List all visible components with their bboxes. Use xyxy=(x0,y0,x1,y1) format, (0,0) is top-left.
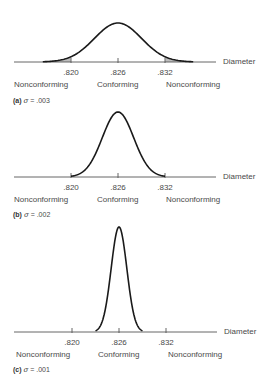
region-nonconforming-left: Nonconforming xyxy=(16,351,70,359)
panel-letter: (b) xyxy=(13,211,22,218)
panel-letter: (a) xyxy=(13,97,22,104)
tick-label-820: .820 xyxy=(64,339,80,347)
panel-c-plot xyxy=(14,227,217,333)
sigma-value: .003 xyxy=(36,97,50,104)
region-nonconforming-right: Nonconforming xyxy=(168,351,222,359)
panel-caption-a: (a) σ = .003 xyxy=(13,97,50,105)
tick-label-832: .832 xyxy=(157,69,173,77)
panel-b-plot xyxy=(14,112,216,178)
axis-label-diameter: Diameter xyxy=(223,173,255,181)
panel-a-plot xyxy=(14,23,216,63)
sigma-value: .002 xyxy=(37,211,51,218)
region-nonconforming-right: Nonconforming xyxy=(166,81,220,89)
region-nonconforming-right: Nonconforming xyxy=(166,196,220,204)
panel-letter: (c) xyxy=(13,366,22,373)
sigma-value: .001 xyxy=(36,366,50,373)
tick-label-820: .820 xyxy=(63,184,79,192)
region-conforming: Conforming xyxy=(98,351,139,359)
tick-label-832: .832 xyxy=(158,339,174,347)
tick-label-826: .826 xyxy=(110,184,126,192)
axis-label-diameter: Diameter xyxy=(223,58,255,66)
tick-label-820: .820 xyxy=(63,69,79,77)
normal-curve xyxy=(43,23,193,62)
axis-label-diameter: Diameter xyxy=(224,328,256,336)
region-conforming: Conforming xyxy=(97,196,138,204)
region-nonconforming-left: Nonconforming xyxy=(14,196,68,204)
region-conforming: Conforming xyxy=(97,81,138,89)
tick-label-826: .826 xyxy=(110,69,126,77)
tick-label-832: .832 xyxy=(157,184,173,192)
panel-caption-b: (b) σ = .002 xyxy=(13,211,50,219)
tick-label-826: .826 xyxy=(111,339,127,347)
region-nonconforming-left: Nonconforming xyxy=(14,81,68,89)
normal-curve xyxy=(71,112,165,176)
normal-curve xyxy=(96,227,143,331)
panel-caption-c: (c) σ = .001 xyxy=(13,366,50,374)
